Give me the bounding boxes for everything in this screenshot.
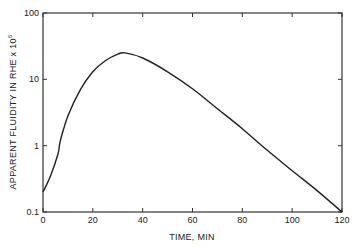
x-tick-label: 40 <box>138 215 148 225</box>
y-tick-label: 10 <box>29 74 39 84</box>
plot-frame <box>43 13 342 212</box>
y-tick-label: 0.1 <box>26 207 39 217</box>
y-tick-label: 1 <box>34 141 39 151</box>
x-tick-label: 80 <box>237 215 247 225</box>
x-tick-label: 0 <box>40 215 45 225</box>
x-tick-label: 100 <box>285 215 300 225</box>
fluidity-curve <box>43 53 342 212</box>
x-axis-ticks: 020406080100120 <box>40 13 349 225</box>
y-axis-ticks: 0.1110100 <box>24 8 342 217</box>
x-tick-label: 60 <box>187 215 197 225</box>
x-tick-label: 20 <box>88 215 98 225</box>
x-tick-label: 120 <box>334 215 349 225</box>
y-tick-label: 100 <box>24 8 39 18</box>
x-axis-label: TIME, MIN <box>169 232 215 242</box>
y-axis-label: APPARENT FLUIDITY IN RHE x 106 <box>7 34 18 189</box>
chart: 020406080100120 0.1110100 TIME, MIN APPA… <box>0 0 353 251</box>
